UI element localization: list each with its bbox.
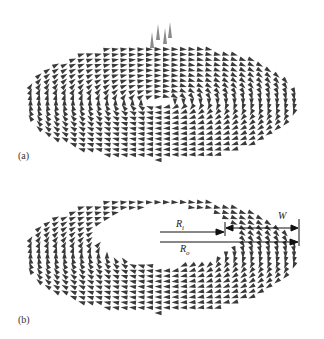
spin-arrow [247,56,254,61]
spin-arrow [129,285,136,289]
spin-arrow [112,116,119,121]
spin-arrow [121,143,128,147]
spin-arrow [103,53,110,57]
spin-arrow [163,84,170,88]
spin-arrow [197,67,204,71]
spin-arrow [172,289,179,293]
spin-arrow [103,64,110,68]
spin-arrow [95,206,102,210]
spin-arrow [231,283,238,288]
spin-arrow [172,279,179,283]
spin-arrow [121,301,128,305]
spin-arrow [223,299,230,303]
spin-arrow [163,290,170,294]
spin-arrow [45,279,52,285]
spin-arrow [95,143,102,147]
spin-arrow [214,289,221,293]
spin-arrow [155,158,162,162]
spin-arrow [62,268,68,275]
spin-arrow [181,103,188,109]
spin-arrow [71,263,77,270]
spin-arrow [215,108,221,115]
core-arrow-up [156,24,160,40]
spin-arrow [146,121,153,125]
panel-b-ring-vortex [27,199,298,315]
spin-arrow [146,90,153,94]
spin-arrow [180,131,187,135]
spin-arrow [78,285,85,290]
spin-arrow [96,269,103,275]
spin-arrow [206,300,213,304]
spin-arrow [78,280,85,285]
spin-arrow [120,64,127,68]
spin-arrow [104,122,111,127]
spin-arrow [205,67,212,71]
spin-arrow [120,53,127,57]
spin-arrow [104,116,111,122]
spin-arrow [103,69,110,73]
spin-arrow [112,48,119,52]
spin-arrow [86,206,93,210]
spin-arrow [256,220,263,225]
spin-arrow [86,89,92,96]
spin-arrow [129,117,136,121]
spin-arrow [104,153,111,157]
spin-arrow [155,116,162,120]
spin-arrow [189,120,196,124]
spin-arrow [121,127,128,131]
spin-arrow [180,115,187,119]
spin-arrow [197,294,204,298]
spin-arrow [264,72,271,78]
spin-arrow [129,295,136,299]
spin-arrow [87,280,94,285]
spin-arrow [214,278,221,283]
spin-arrow [248,283,255,288]
spin-arrow [112,153,119,157]
spin-arrow [45,115,51,122]
spin-arrow [163,274,170,278]
spin-arrow [45,268,51,275]
spin-arrow [215,261,221,268]
spin-arrow [95,280,102,285]
spin-arrow [163,89,170,93]
spin-arrow [43,226,50,232]
spin-arrow [231,51,238,55]
spin-arrow [137,74,144,78]
spin-arrow [239,210,246,215]
spin-arrow [129,290,136,294]
spin-arrow [163,131,170,135]
spin-arrow [137,63,144,67]
spin-arrow [78,138,85,143]
spin-arrow [231,299,238,303]
spin-arrow [138,127,145,131]
spin-arrow [213,72,220,77]
spin-arrow [104,138,111,142]
spin-arrow [104,291,111,295]
spin-arrow [69,79,76,85]
spin-arrow [265,235,271,242]
spin-arrow [256,82,262,89]
w-arrowhead-left [226,225,233,231]
spin-arrow [197,131,204,135]
spin-arrow [222,82,229,88]
spin-arrow [293,108,298,115]
spin-arrow [266,277,273,283]
spin-arrow [87,274,94,280]
spin-arrow [223,146,230,150]
spin-arrow [69,74,76,80]
spin-arrow [69,59,76,64]
spin-arrow [224,108,230,115]
spin-arrow [223,283,230,288]
spin-arrow [172,152,179,156]
spin-arrow [86,217,93,221]
spin-arrow [248,82,254,89]
spin-arrow [205,57,212,61]
spin-arrow [45,285,52,291]
spin-arrow [240,294,247,299]
spin-arrow [214,210,221,214]
spin-arrow [197,57,204,61]
spin-arrow [146,300,153,304]
spin-arrow [103,89,110,95]
spin-arrow [70,296,77,301]
spin-arrow [214,141,221,145]
